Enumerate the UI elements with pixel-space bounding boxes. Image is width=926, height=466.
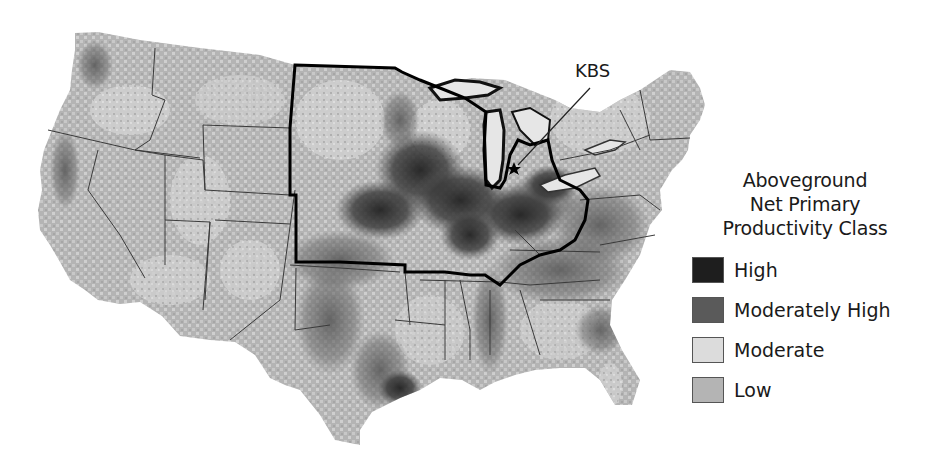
legend-item-moderate: Moderate — [690, 330, 920, 370]
swatch-moderately-high — [692, 297, 724, 323]
swatch-high — [692, 257, 724, 283]
map-container: KBS Aboveground Net Primary Productivity… — [0, 0, 926, 466]
legend-item-high: High — [690, 250, 920, 290]
legend-title-line-1: Aboveground — [690, 168, 920, 192]
legend-title-line-3: Productivity Class — [690, 216, 920, 240]
swatch-moderate — [692, 337, 724, 363]
legend-item-low: Low — [690, 370, 920, 410]
swatch-low — [692, 377, 724, 403]
legend-label-low: Low — [734, 379, 771, 401]
legend-items: High Moderately High Moderate Low — [690, 250, 920, 410]
legend-item-moderately-high: Moderately High — [690, 290, 920, 330]
legend-label-moderate: Moderate — [734, 339, 824, 361]
legend-label-high: High — [734, 259, 778, 281]
kbs-site-label: KBS — [575, 60, 610, 81]
legend-title-line-2: Net Primary — [690, 192, 920, 216]
legend: Aboveground Net Primary Productivity Cla… — [690, 168, 920, 410]
legend-label-moderately-high: Moderately High — [734, 299, 891, 321]
legend-title: Aboveground Net Primary Productivity Cla… — [690, 168, 920, 240]
